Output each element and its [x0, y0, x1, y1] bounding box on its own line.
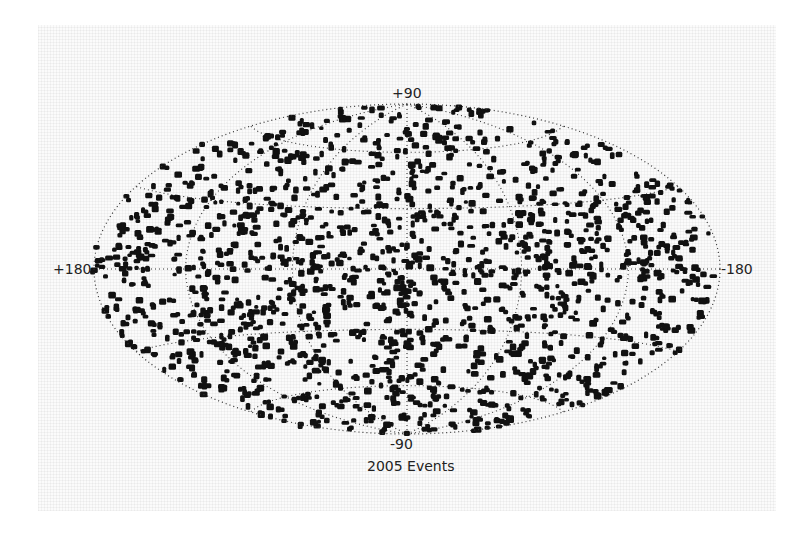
- label-south-pole: -90: [390, 437, 413, 451]
- label-left-longitude: +180: [53, 262, 91, 276]
- all-sky-map: [0, 0, 812, 536]
- chart-title: 2005 Events: [367, 459, 454, 473]
- label-north-pole: +90: [392, 86, 422, 100]
- label-right-longitude: -180: [721, 262, 753, 276]
